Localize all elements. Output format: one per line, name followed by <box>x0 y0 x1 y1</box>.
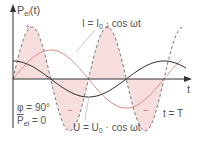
power-axis-arrow-icon <box>10 4 16 12</box>
y-axis-label: Pel(t) <box>17 5 40 19</box>
voltage-label-leader <box>85 96 89 120</box>
current-label-leader <box>76 30 95 52</box>
current-formula-label: I = I0 · cos ωt <box>82 19 141 32</box>
mean-power-label: Pel = 0 <box>17 116 46 129</box>
plus-sign: + <box>25 22 30 32</box>
time-axis-arrow-icon <box>184 76 192 82</box>
phase-label: φ = 90° <box>17 103 50 113</box>
minus-sign: − <box>143 105 148 115</box>
minus-sign: − <box>67 105 72 115</box>
x-axis-label: t <box>187 84 190 94</box>
period-label: t = T <box>163 109 183 119</box>
voltage-formula-label: U = U0 · cos ωt <box>73 123 141 136</box>
